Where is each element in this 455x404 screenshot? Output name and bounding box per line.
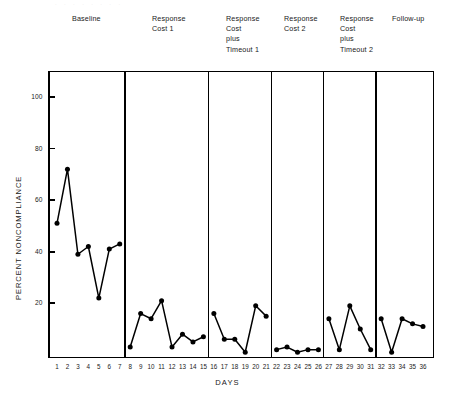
- data-point-day-34: [400, 316, 405, 321]
- data-point-day-23: [285, 345, 290, 350]
- data-point-day-16: [211, 311, 216, 316]
- data-point-day-10: [149, 316, 154, 321]
- data-point-day-31: [368, 347, 373, 352]
- data-point-day-9: [138, 311, 143, 316]
- data-point-day-6: [107, 247, 112, 252]
- data-point-day-20: [253, 303, 258, 308]
- data-point-day-25: [305, 347, 310, 352]
- data-line-5: [329, 306, 371, 350]
- data-point-day-36: [421, 324, 426, 329]
- data-point-day-30: [358, 327, 363, 332]
- data-point-day-18: [232, 337, 237, 342]
- data-point-day-12: [170, 345, 175, 350]
- data-point-day-11: [159, 298, 164, 303]
- data-point-day-35: [410, 321, 415, 326]
- data-point-day-24: [295, 350, 300, 355]
- data-point-day-7: [117, 241, 122, 246]
- data-line-1: [57, 169, 120, 298]
- data-point-day-22: [274, 347, 279, 352]
- data-point-day-5: [96, 296, 101, 301]
- data-point-day-15: [201, 334, 206, 339]
- data-point-day-17: [222, 337, 227, 342]
- data-point-day-4: [86, 244, 91, 249]
- data-point-day-8: [128, 345, 133, 350]
- data-layer: [0, 0, 455, 404]
- data-line-6: [381, 319, 423, 353]
- data-point-day-1: [55, 221, 60, 226]
- data-point-day-3: [75, 252, 80, 257]
- data-point-day-27: [326, 316, 331, 321]
- data-point-day-2: [65, 167, 70, 172]
- data-point-day-13: [180, 332, 185, 337]
- data-point-day-28: [337, 347, 342, 352]
- data-point-day-26: [316, 347, 321, 352]
- data-point-day-33: [389, 350, 394, 355]
- data-point-day-14: [190, 339, 195, 344]
- data-line-3: [214, 306, 266, 352]
- data-point-day-29: [347, 303, 352, 308]
- data-point-day-19: [243, 350, 248, 355]
- single-subject-design-chart: · · · · · · · · BaselineResponse Cost 1R…: [0, 0, 455, 404]
- data-point-day-21: [264, 314, 269, 319]
- data-point-day-32: [379, 316, 384, 321]
